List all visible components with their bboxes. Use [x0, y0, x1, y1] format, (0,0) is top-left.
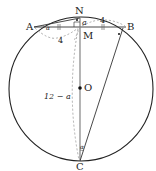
label-segment-mc: 12 − a: [44, 92, 71, 101]
dashed-mc-brace: [72, 29, 79, 160]
right-angle-mark: [74, 22, 80, 27]
segment-an: [34, 18, 80, 27]
label-angle-c: α: [80, 143, 84, 150]
angle-arc-c: [80, 150, 84, 151]
label-m: M: [83, 30, 93, 41]
label-c: C: [76, 161, 84, 171]
label-a: A: [25, 21, 34, 32]
dot-n: [76, 19, 78, 21]
circle-diagram: N A B M O C a 4 4 12 − a α α: [0, 0, 156, 171]
center-dot-o: [78, 86, 82, 90]
dashed-am-brace: [35, 28, 78, 38]
label-n: N: [75, 5, 84, 16]
dot-b: [118, 33, 120, 35]
label-segment-nm: a: [82, 18, 87, 27]
label-b: B: [127, 21, 134, 32]
label-o: O: [84, 82, 92, 93]
label-segment-am: 4: [58, 36, 63, 45]
label-angle-a: α: [46, 24, 50, 31]
segment-bc: [80, 28, 123, 161]
label-segment-mb: 4: [100, 16, 105, 25]
